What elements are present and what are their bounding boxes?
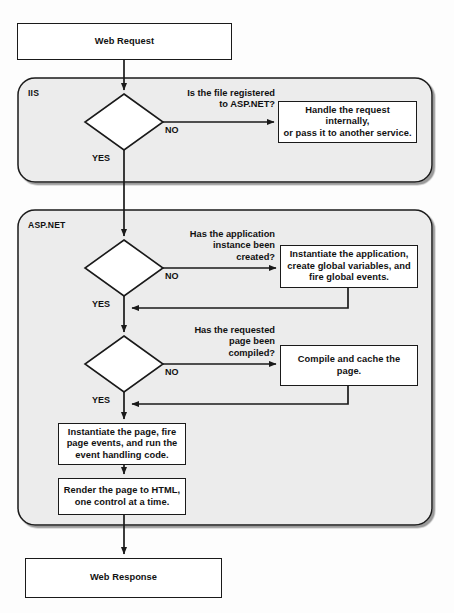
branch-no-app-instance: NO [165,271,179,281]
decision-label-file-registered: Is the file registered to ASP.NET? [155,88,275,111]
branch-yes-app-instance: YES [92,299,110,309]
node-handle-internally[interactable]: Handle the request internally, or pass i… [278,101,417,143]
branch-yes-file-registered: YES [92,153,110,163]
node-compile-cache-page[interactable]: Compile and cache the page. [280,345,418,386]
node-web-request[interactable]: Web Request [17,23,232,60]
node-instantiate-page[interactable]: Instantiate the page, fire page events, … [58,423,186,465]
branch-no-file-registered: NO [165,125,179,135]
branch-no-page-compiled: NO [165,367,179,377]
panel-label-iis: IIS [28,88,39,98]
node-web-response[interactable]: Web Response [25,558,222,598]
branch-yes-page-compiled: YES [92,395,110,405]
flowchart-canvas: IIS ASP.NET Web Request Handle the reque… [0,0,454,613]
panel-label-aspnet: ASP.NET [28,220,66,230]
node-render-page[interactable]: Render the page to HTML, one control at … [58,478,186,515]
node-instantiate-application[interactable]: Instantiate the application, create glob… [280,245,418,288]
decision-label-page-compiled: Has the requested page been compiled? [155,325,275,359]
decision-label-app-instance: Has the application instance been create… [155,229,275,263]
